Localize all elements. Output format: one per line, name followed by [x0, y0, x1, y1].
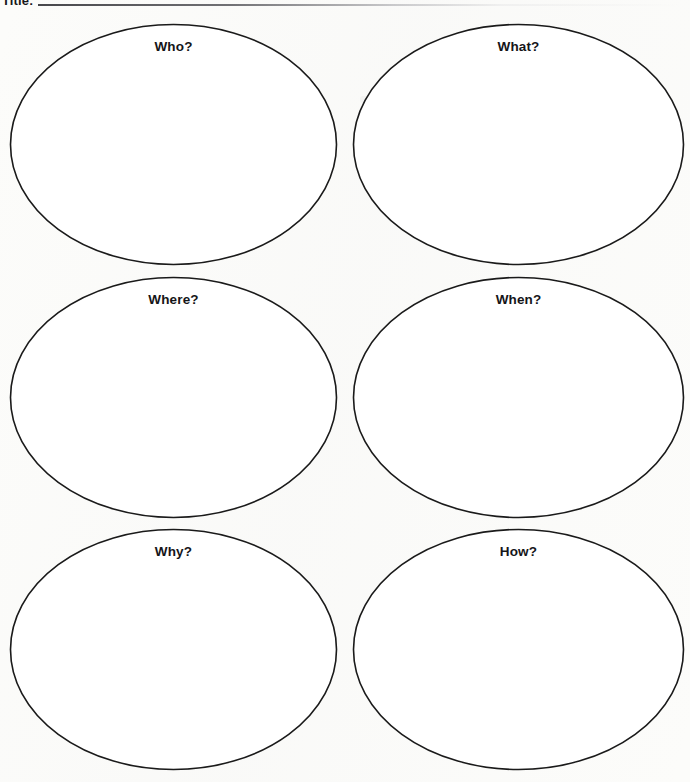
worksheet-page: Title: Who? What? Where? When?	[0, 0, 690, 782]
bubble-label-when: When?	[352, 293, 685, 308]
ellipse-outline	[11, 25, 337, 265]
bubble-grid: Who? What? Where? When? Why?	[0, 0, 690, 782]
bubble-label-how: How?	[352, 545, 685, 560]
header: Title:	[0, 0, 690, 16]
bubble-label-what: What?	[352, 40, 685, 55]
ellipse-outline	[354, 278, 684, 518]
ellipse-outline	[354, 530, 684, 770]
bubble-label-who: Who?	[9, 40, 338, 55]
bubble-label-where: Where?	[9, 293, 338, 308]
ellipse-outline	[11, 530, 337, 770]
ellipse-outline	[11, 278, 337, 518]
bubble-who[interactable]: Who?	[9, 23, 338, 266]
title-label: Title:	[2, 0, 33, 8]
bubble-where[interactable]: Where?	[9, 276, 338, 519]
bubble-how[interactable]: How?	[352, 528, 685, 771]
title-write-in-line[interactable]	[38, 4, 683, 6]
bubble-when[interactable]: When?	[352, 276, 685, 519]
bubble-label-why: Why?	[9, 545, 338, 560]
bubble-why[interactable]: Why?	[9, 528, 338, 771]
bubble-what[interactable]: What?	[352, 23, 685, 266]
ellipse-outline	[354, 25, 684, 265]
